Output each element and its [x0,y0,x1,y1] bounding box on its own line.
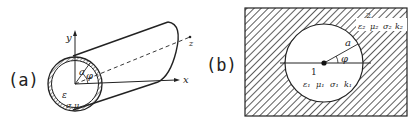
radius-label-b: a [345,37,351,48]
region-1-number: 1 [311,67,317,77]
region-1-param-epsilon: ε₁ [303,80,311,89]
shell-params-label: σ,μ [66,101,79,110]
region-1-param-sigma: σ₁ [330,80,339,89]
angle-label: φ [86,70,93,81]
region-1-param-k: k₁ [344,80,352,89]
z-axis-end-icon [189,36,192,39]
x-axis-arrow-icon [174,78,180,82]
cylinder-top-edge [73,22,168,56]
x-axis-label: x [183,74,189,85]
region-1-param-mu: μ₁ [316,80,324,89]
panel-a: (a) y x z a φ ε σ,μ [8,22,194,111]
panel-b-label: (b) [206,55,237,75]
region-2-param-sigma: σ₂ [383,22,392,31]
interior-permittivity-label: ε [62,90,67,100]
y-axis-label: y [65,32,72,43]
region-2-param-k: k₂ [395,22,403,31]
radius-label: a [79,66,85,77]
region-2-number: 2 [366,11,371,20]
figure-canvas: (a) y x z a φ ε σ,μ (b) [0,0,418,127]
z-axis-label: z [188,39,194,48]
center-dot [321,60,326,65]
cylinder-far-end [158,22,178,82]
angle-label-b: φ [341,53,348,64]
region-2-param-epsilon: ε₂ [358,22,366,31]
panel-b: (b) a φ 1 ε₁ μ₁ σ₁ k₁ 2 ε₂ μ₂ σ₂ k₂ [206,8,407,116]
y-axis-arrow-icon [73,30,77,36]
panel-a-label: (a) [8,70,39,90]
region-2-param-mu: μ₂ [370,22,378,31]
